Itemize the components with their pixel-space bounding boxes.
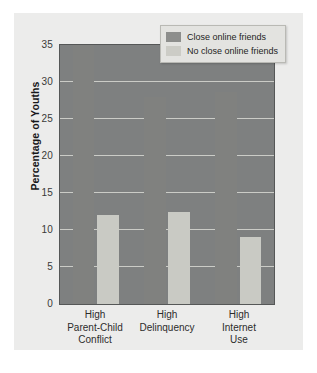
y-axis-tick-label: 5 [47,261,53,272]
x-axis-category-label-line: Use [203,334,275,347]
bar [97,215,119,304]
legend-item-label: No close online friends [187,46,278,56]
plot-area [59,44,275,305]
chart-legend: Close online friends No close online fri… [160,25,286,63]
legend-item-close-online-friends: Close online friends [166,30,278,44]
bar [215,92,237,304]
legend-item-no-close-online-friends: No close online friends [166,44,278,58]
x-axis-category-label-line: High [131,309,203,322]
legend-item-label: Close online friends [187,32,266,42]
x-axis-category-label-line: Internet [203,322,275,335]
x-axis-category-label: HighDelinquency [131,309,203,347]
figure-panel: Percentage of Youths 05101520253035 High… [14,13,303,350]
bar [144,97,166,304]
y-axis-tick-labels: 05101520253035 [28,44,56,305]
x-axis-category-label-line: Delinquency [131,322,203,335]
y-axis-tick-label: 30 [41,76,53,87]
y-axis-tick-label: 0 [47,298,53,309]
x-axis-category-label-line: Parent-Child [59,322,131,335]
bar [240,237,262,304]
y-axis-tick-label: 15 [41,187,53,198]
y-axis-tick-label: 35 [41,39,53,50]
x-axis-category-label-line: High [59,309,131,322]
legend-swatch-icon [166,46,181,56]
x-axis-category-label: HighParent-ChildConflict [59,309,131,347]
x-axis-category-label: HighInternetUse [203,309,275,347]
bar [73,45,95,304]
x-axis-category-labels: HighParent-ChildConflictHighDelinquencyH… [59,309,275,347]
x-axis-category-label-line: Conflict [59,334,131,347]
y-axis-tick-label: 10 [41,224,53,235]
x-axis-category-label-line: High [203,309,275,322]
bar [168,212,190,305]
y-axis-tick-label: 20 [41,150,53,161]
legend-swatch-icon [166,32,181,42]
y-axis-tick-label: 25 [41,113,53,124]
